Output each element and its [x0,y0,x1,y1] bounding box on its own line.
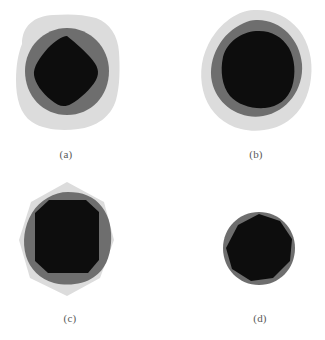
panel-b [196,6,316,138]
panel-d [214,200,306,300]
figure-canvas: (a) (b) (c) (d) [0,0,325,340]
panel-c-graphic [12,178,128,302]
panel-c-label: (c) [12,312,128,324]
panel-a-graphic [8,10,124,138]
panel-c-inner-region [35,200,99,273]
panel-d-graphic [214,200,306,300]
panel-b-label: (b) [196,148,316,160]
panel-b-inner-region [222,31,295,108]
panel-c [12,178,128,302]
panel-a [8,10,124,138]
panel-d-label: (d) [214,312,306,324]
panel-a-label: (a) [8,148,124,160]
panel-b-graphic [196,6,316,138]
